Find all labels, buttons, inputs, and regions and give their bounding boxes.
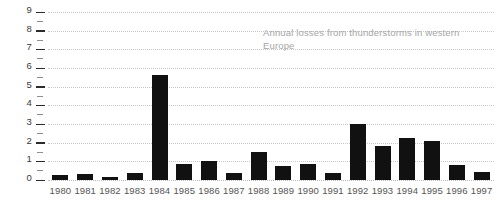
y-tick-label: 6 [27, 61, 32, 71]
bar-1980 [52, 175, 68, 180]
y-tick-mark [36, 86, 45, 87]
bar-1990 [300, 164, 316, 180]
bar-chart: 0123456789 19801981198219831984198519861… [0, 0, 502, 209]
y-tick-mark [36, 161, 45, 162]
y-minor-tick-mark [37, 58, 43, 59]
y-minor-tick-mark [37, 21, 43, 22]
y-tick-mark [36, 30, 45, 31]
bar-1995 [424, 141, 440, 180]
y-tick-label: 3 [27, 117, 32, 127]
y-tick-mark [36, 142, 45, 143]
y-tick-mark [36, 68, 45, 69]
y-tick-label: 2 [27, 136, 32, 146]
bar-1985 [176, 164, 192, 180]
y-tick-mark [36, 12, 45, 13]
y-minor-tick-mark [37, 96, 43, 97]
bar-1991 [325, 173, 341, 180]
y-minor-tick-mark [37, 152, 43, 153]
y-tick-mark [36, 49, 45, 50]
y-minor-tick-mark [37, 114, 43, 115]
y-tick-label: 1 [27, 154, 32, 164]
chart-annotation: Annual losses from thunderstorms in west… [263, 27, 468, 52]
bar-1994 [399, 138, 415, 180]
y-minor-tick-mark [37, 40, 43, 41]
y-tick-mark [36, 180, 45, 181]
y-tick-mark [36, 105, 45, 106]
y-minor-tick-mark [37, 133, 43, 134]
bar-1996 [449, 165, 465, 180]
bar-1984 [152, 75, 168, 180]
y-tick-mark [36, 124, 45, 125]
y-minor-tick-mark [37, 77, 43, 78]
bar-1997 [474, 172, 490, 180]
bar-1986 [201, 161, 217, 180]
y-tick-label: 8 [27, 24, 32, 34]
bar-1983 [127, 173, 143, 180]
bar-1993 [375, 146, 391, 180]
y-tick-label: 4 [27, 98, 32, 108]
x-tick-label-1997: 1997 [467, 185, 497, 196]
bar-1988 [251, 152, 267, 180]
y-minor-tick-mark [37, 170, 43, 171]
y-tick-label: 9 [27, 5, 32, 15]
y-tick-label: 7 [27, 42, 32, 52]
bar-1987 [226, 173, 242, 180]
bar-1989 [275, 166, 291, 180]
bar-1981 [77, 174, 93, 180]
bar-1992 [350, 124, 366, 180]
y-tick-label: 5 [27, 80, 32, 90]
y-tick-label: 0 [27, 173, 32, 183]
bar-1982 [102, 177, 118, 180]
